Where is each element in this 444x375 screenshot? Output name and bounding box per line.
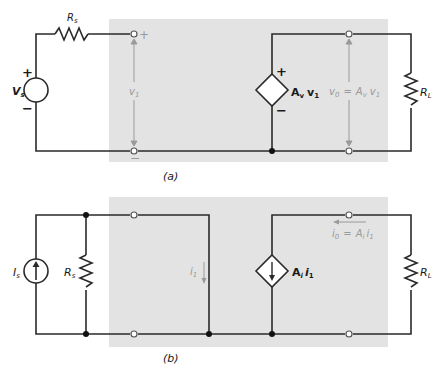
vs-label: Vs	[12, 85, 25, 99]
rl-label-b: RL	[420, 266, 432, 280]
junction-dot-b-rs-top	[83, 212, 89, 218]
resistor-rl-a	[405, 73, 417, 105]
output-terminal-bottom-b	[346, 331, 352, 337]
junction-dot-b-rs-bottom	[83, 331, 89, 337]
amplifier-shade-b	[109, 197, 388, 347]
amplifier-circuit-diagrams: + − Vs Rs + − v1 + − Avv1	[0, 0, 444, 375]
resistor-rl-b	[405, 255, 417, 287]
vs-minus: −	[22, 101, 33, 116]
output-terminal-top-a	[346, 31, 352, 37]
rs-label-b: Rs	[64, 266, 76, 280]
resistor-rs-a	[55, 28, 88, 40]
is-label: Is	[13, 266, 20, 280]
junction-dot-b-inner	[206, 331, 212, 337]
input-terminal-top-a	[131, 31, 137, 37]
dep-plus-a: +	[276, 64, 287, 79]
voltage-source-vs	[24, 78, 48, 102]
output-terminal-bottom-a	[346, 148, 352, 154]
junction-dot-a	[269, 148, 275, 154]
caption-a: (a)	[163, 170, 178, 183]
rl-label-a: RL	[420, 86, 432, 100]
output-terminal-top-b	[346, 212, 352, 218]
caption-b: (b)	[163, 352, 179, 365]
rs-label-a: Rs	[67, 12, 78, 25]
input-minus-a: −	[130, 151, 140, 165]
input-plus-a: +	[139, 28, 149, 42]
junction-dot-b-dep	[269, 331, 275, 337]
wire-a-left	[36, 34, 55, 78]
dep-minus-a: −	[276, 103, 287, 118]
circuit-b: Is Rs i1 Aii1 i0=Aii1	[13, 197, 432, 365]
input-terminal-bottom-b	[131, 331, 137, 337]
vs-plus: +	[22, 65, 33, 80]
input-terminal-top-b	[131, 212, 137, 218]
circuit-a: + − Vs Rs + − v1 + − Avv1	[12, 12, 432, 183]
resistor-rs-b	[80, 255, 92, 287]
